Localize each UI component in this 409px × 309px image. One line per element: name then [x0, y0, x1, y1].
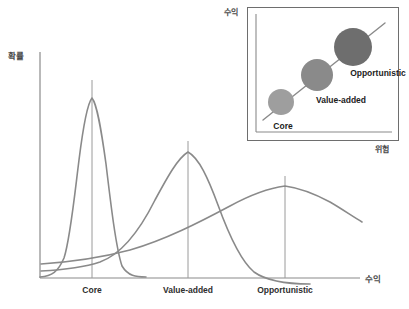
inset-x-axis-label: 위험 — [375, 144, 389, 154]
bubble-opportunistic — [334, 28, 372, 66]
investment-style-return-distribution-chart: 확률 수익 Core Value-added Opportunistic — [0, 0, 409, 309]
curve-value-added — [41, 152, 310, 284]
inset-chart-group: 수익 위험 Core Value-added Opportunistic — [224, 7, 406, 154]
x-tick-label-core: Core — [82, 285, 102, 295]
x-tick-label-opportunistic: Opportunistic — [257, 285, 313, 295]
bubble-label-opportunistic: Opportunistic — [350, 68, 406, 78]
bubble-label-value-added: Value-added — [316, 95, 366, 105]
inset-y-axis-label: 수익 — [224, 7, 238, 17]
bubble-value-added — [301, 59, 333, 91]
chart-page: 확률 수익 Core Value-added Opportunistic — [0, 0, 409, 309]
bubble-core — [268, 89, 294, 115]
bubble-label-core: Core — [273, 121, 293, 131]
x-tick-label-value-added: Value-added — [163, 285, 213, 295]
main-x-axis-label: 수익 — [365, 274, 381, 284]
curve-opportunistic — [41, 186, 362, 264]
main-y-axis-label: 확률 — [8, 51, 24, 61]
